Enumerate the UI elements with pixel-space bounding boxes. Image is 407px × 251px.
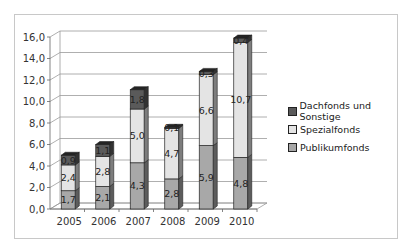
data-label: 6,6	[199, 105, 214, 116]
bar-side	[179, 176, 183, 209]
x-tick-label: 2008	[160, 216, 185, 227]
y-tick-label: 14,0	[23, 53, 45, 64]
data-label: 0,3	[199, 68, 214, 79]
data-label: 2,1	[95, 192, 110, 203]
x-tick-label: 2007	[126, 216, 151, 227]
data-label: 2,4	[61, 172, 76, 183]
y-tick-label: 16,0	[23, 32, 45, 43]
bar-side	[110, 183, 114, 209]
gridline-side	[50, 31, 60, 37]
legend-item-spezialfonds: Spezialfonds	[288, 120, 407, 138]
gridline-side	[50, 182, 60, 188]
y-tick-label: 6,0	[29, 139, 45, 150]
bar-side	[75, 188, 79, 209]
bar-side	[213, 143, 217, 209]
data-label: 0,1	[164, 122, 179, 133]
data-label: 5,0	[130, 130, 145, 141]
gridline-side	[50, 160, 60, 166]
bar-side	[75, 162, 79, 191]
x-tick-label: 2005	[57, 216, 82, 227]
bar-side	[110, 153, 114, 186]
x-tick-label: 2006	[91, 216, 116, 227]
data-label: 1,7	[61, 194, 76, 205]
legend-item-publikumfonds: Publikumfonds	[288, 138, 407, 156]
gridline-side	[50, 117, 60, 123]
data-label: 0,9	[61, 155, 76, 166]
data-label: 1,1	[95, 145, 110, 156]
legend: Dachfonds und Sonstige Spezialfonds Publ…	[288, 102, 407, 156]
bar-side	[144, 87, 148, 109]
bar-side	[144, 106, 148, 163]
x-tick-label: 2010	[229, 216, 254, 227]
y-tick-label: 0,0	[29, 204, 45, 215]
y-tick-label: 12,0	[23, 75, 45, 86]
gridline-side	[50, 53, 60, 59]
legend-label: Dachfonds und Sonstige	[300, 100, 407, 122]
gridline-side	[50, 74, 60, 80]
bar-side	[213, 72, 217, 146]
legend-label: Spezialfonds	[300, 124, 360, 135]
gridline-side	[50, 96, 60, 102]
data-label: 2,8	[95, 166, 110, 177]
bar-side	[248, 154, 252, 209]
legend-label: Publikumfonds	[300, 142, 370, 153]
x-tick-label: 2009	[195, 216, 220, 227]
data-label: 2,8	[164, 188, 179, 199]
gridline-side	[50, 139, 60, 145]
data-label: 5,9	[199, 172, 214, 183]
y-tick-label: 10,0	[23, 96, 45, 107]
y-tick-label: 4,0	[29, 161, 45, 172]
bar-side	[144, 160, 148, 209]
legend-swatch-icon	[288, 125, 297, 134]
y-tick-label: 8,0	[29, 118, 45, 129]
data-label: 4,8	[233, 178, 248, 189]
data-label: 4,7	[164, 148, 179, 159]
data-label: 1,8	[130, 94, 145, 105]
data-label: 0,4	[233, 35, 248, 46]
legend-swatch-icon	[288, 143, 297, 152]
data-label: 10,7	[230, 94, 251, 105]
legend-swatch-icon	[288, 107, 297, 116]
y-tick-label: 2,0	[29, 182, 45, 193]
bar-side	[179, 125, 183, 179]
legend-item-dachfonds: Dachfonds und Sonstige	[288, 102, 407, 120]
data-label: 4,3	[130, 180, 145, 191]
